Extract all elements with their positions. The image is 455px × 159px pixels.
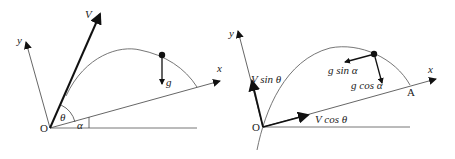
left-diagram: O x y V g θ α <box>16 8 222 134</box>
y-axis-label: y <box>228 27 234 39</box>
landing-point-label: A <box>407 86 415 98</box>
g-sin-alpha-arrow <box>345 55 371 62</box>
velocity-arrow <box>50 14 100 128</box>
trajectory-curve <box>66 49 197 96</box>
v-cos-theta-label: V cos θ <box>315 113 348 125</box>
v-cos-theta-arrow <box>263 115 308 127</box>
projectile-on-incline-figure: O x y V g θ α O x y A V sin θ V cos θ g … <box>0 0 455 159</box>
origin-label: O <box>252 121 260 133</box>
velocity-label: V <box>85 8 93 20</box>
alpha-label: α <box>77 119 83 131</box>
projectile-ball <box>159 52 165 58</box>
v-sin-theta-label: V sin θ <box>251 73 282 85</box>
g-cos-alpha-label: g cos α <box>351 79 383 91</box>
gravity-label: g <box>166 76 172 88</box>
origin-label: O <box>40 122 48 134</box>
y-axis <box>26 42 50 128</box>
projectile-ball <box>371 51 377 57</box>
x-axis-label: x <box>427 63 433 75</box>
y-axis-label: y <box>16 34 22 46</box>
x-axis <box>50 81 220 128</box>
x-axis-label: x <box>216 62 222 74</box>
right-diagram: O x y A V sin θ V cos θ g sin α g cos α <box>228 27 436 150</box>
theta-label: θ <box>60 111 66 123</box>
g-sin-alpha-label: g sin α <box>328 64 358 76</box>
trajectory-curve <box>257 47 410 150</box>
